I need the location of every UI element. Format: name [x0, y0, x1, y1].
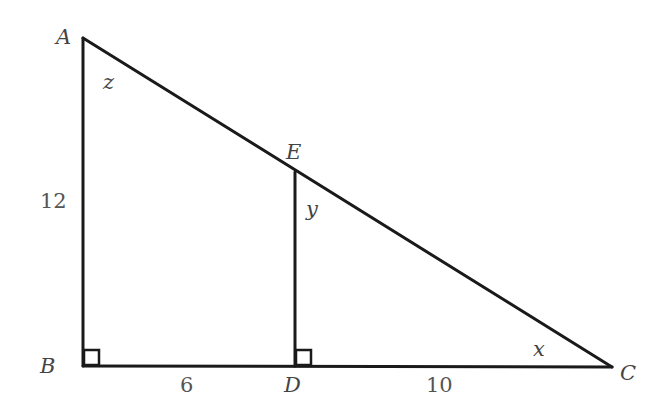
angle-label-x: x [533, 337, 545, 361]
point-label-c: C [620, 361, 636, 385]
right-angle-mark-d [296, 350, 311, 365]
length-label-dc: 10 [426, 373, 453, 397]
point-label-a: A [54, 25, 71, 49]
segment-bc [83, 366, 612, 367]
length-label-ab: 12 [40, 189, 67, 213]
point-label-e: E [285, 140, 301, 164]
segment-ac [83, 38, 612, 367]
angle-label-y: y [305, 197, 319, 221]
point-label-d: D [283, 373, 301, 397]
right-angle-mark-b [84, 350, 99, 365]
triangle-diagram: A B D E C z y x 12 6 10 [0, 0, 672, 417]
diagram-canvas: A B D E C z y x 12 6 10 [0, 0, 672, 417]
angle-label-z: z [102, 70, 115, 94]
point-label-b: B [39, 354, 55, 378]
length-label-bd: 6 [180, 373, 193, 397]
